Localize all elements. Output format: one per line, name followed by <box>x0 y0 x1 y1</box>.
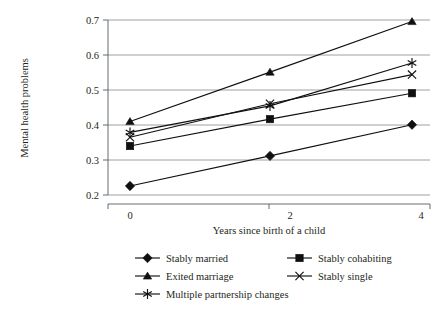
legend-label-stably-cohabiting: Stably cohabiting <box>318 253 393 264</box>
y-tick-label-3: 0.5 <box>86 85 99 96</box>
y-axis: 0.7 0.6 0.5 0.4 0.3 0.2 Mental health pr… <box>19 15 108 201</box>
legend-label-multiple-partnership-changes: Multiple partnership changes <box>166 289 288 300</box>
legend-label-stably-married: Stably married <box>166 253 229 264</box>
line-chart: 0.7 0.6 0.5 0.4 0.3 0.2 Mental health pr… <box>0 0 444 314</box>
marker-x-cross <box>408 71 416 79</box>
marker-asterisk <box>408 58 417 68</box>
gridlines <box>108 20 430 195</box>
marker-square <box>296 254 303 261</box>
marker-square <box>408 90 415 97</box>
marker-square <box>126 142 133 149</box>
marker-triangle <box>408 18 416 25</box>
y-tick-label-4: 0.6 <box>86 50 99 61</box>
legend-item-stably-married[interactable]: Stably married <box>135 253 229 264</box>
legend-item-stably-single[interactable]: Stably single <box>287 271 373 282</box>
marker-diamond <box>125 181 134 190</box>
legend-label-stably-single: Stably single <box>318 271 373 282</box>
legend-item-exited-marriage[interactable]: Exited marriage <box>135 271 234 282</box>
y-tick-label-5: 0.7 <box>86 15 99 26</box>
marker-diamond <box>265 151 274 160</box>
x-tick-label-0: 0 <box>127 210 132 221</box>
series-stably-married <box>125 120 416 191</box>
y-tick-label-1: 0.3 <box>86 155 99 166</box>
marker-diamond <box>143 253 152 262</box>
y-tick-label-0: 0.2 <box>86 190 99 201</box>
x-tick-label-2: 4 <box>418 210 424 221</box>
x-axis-title: Years since birth of a child <box>213 225 326 236</box>
series-exited-marriage <box>126 18 416 125</box>
x-axis: 0 2 4 Years since birth of a child <box>108 204 430 236</box>
marker-triangle <box>126 118 134 125</box>
marker-diamond <box>407 120 416 129</box>
x-tick-label-1: 2 <box>287 210 292 221</box>
marker-triangle <box>266 68 274 75</box>
legend-item-multiple-partnership-changes[interactable]: Multiple partnership changes <box>135 289 288 300</box>
chart-figure: 0.7 0.6 0.5 0.4 0.3 0.2 Mental health pr… <box>0 0 444 314</box>
chart-legend: Stably married Stably cohabiting Exited … <box>135 253 393 300</box>
y-axis-title: Mental health problems <box>19 58 30 158</box>
series-stably-cohabiting <box>126 90 415 150</box>
legend-label-exited-marriage: Exited marriage <box>166 271 234 282</box>
marker-square <box>266 115 273 122</box>
y-tick-label-2: 0.4 <box>86 120 100 131</box>
legend-item-stably-cohabiting[interactable]: Stably cohabiting <box>287 253 393 264</box>
